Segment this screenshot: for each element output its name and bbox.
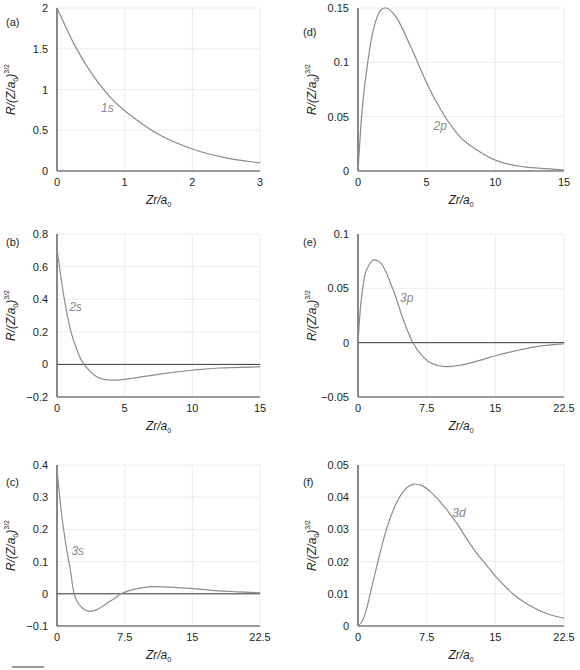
panel-e: 07.51522.5−0.0500.050.1(e)Zr/a0R/(Z/a0)3…: [303, 228, 575, 434]
x-tick-label: 15: [558, 176, 570, 188]
panel-label: (f): [303, 476, 313, 488]
panel-d: 05101500.050.10.15(d)Zr/a0R/(Z/a0)3/22p: [303, 2, 570, 208]
y-tick-label: 0.05: [328, 282, 349, 294]
y-tick-label: 2: [42, 2, 48, 14]
y-axis-title: R/(Z/a0)3/2: [3, 64, 19, 115]
y-tick-label: 0.01: [328, 588, 349, 600]
y-tick-label: 0.6: [33, 261, 48, 273]
y-tick-label: 0: [42, 165, 48, 177]
panel-a: 012300.511.52(a)Zr/a0R/(Z/a0)3/21s: [3, 2, 263, 208]
x-axis-title: Zr/a0: [145, 193, 171, 208]
y-tick-label: −0.05: [321, 391, 349, 403]
y-tick-label: 0: [343, 620, 349, 632]
y-tick-label: 0.15: [328, 2, 349, 14]
y-tick-label: 0.1: [33, 556, 48, 568]
curve-label: 3p: [400, 291, 414, 305]
y-tick-label: 0.03: [328, 523, 349, 535]
y-axis-title: R/(Z/a0)3/2: [304, 64, 320, 115]
x-tick-label: 5: [122, 402, 128, 414]
x-axis-title: Zr/a0: [145, 419, 171, 434]
y-tick-label: 0.4: [33, 459, 48, 471]
curve-label: 3d: [452, 506, 466, 520]
y-tick-label: 0: [42, 588, 48, 600]
y-tick-label: 0.05: [328, 111, 349, 123]
panel-label: (c): [6, 476, 19, 488]
curve-2p: [358, 8, 564, 171]
x-tick-label: 5: [424, 176, 430, 188]
y-tick-label: 0.2: [33, 326, 48, 338]
y-tick-label: 0: [343, 165, 349, 177]
y-tick-label: 1.5: [33, 43, 48, 55]
x-tick-label: 15: [489, 402, 501, 414]
y-tick-label: 0.1: [334, 56, 349, 68]
x-tick-label: 0: [355, 176, 361, 188]
curve-label: 2s: [68, 300, 82, 314]
y-axis-title: R/(Z/a0)3/2: [304, 520, 320, 571]
x-tick-label: 10: [186, 402, 198, 414]
y-tick-label: 0.04: [328, 491, 349, 503]
y-tick-label: 0.2: [33, 523, 48, 535]
curve-2s: [57, 249, 260, 380]
curve-label: 3s: [71, 544, 84, 558]
x-tick-label: 0: [54, 631, 60, 643]
y-tick-label: 0.8: [33, 228, 48, 240]
x-axis-title: Zr/a0: [447, 648, 473, 663]
x-axis-title: Zr/a0: [447, 193, 473, 208]
panel-label: (d): [303, 26, 316, 38]
y-tick-label: 0.05: [328, 459, 349, 471]
x-tick-label: 15: [489, 631, 501, 643]
x-tick-label: 0: [355, 402, 361, 414]
y-tick-label: −0.2: [26, 391, 48, 403]
panel-f: 07.51522.500.010.020.030.040.05(f)Zr/a0R…: [303, 459, 575, 663]
x-tick-label: 15: [254, 402, 266, 414]
x-tick-label: 22.5: [249, 631, 270, 643]
x-tick-label: 7.5: [117, 631, 132, 643]
footer-marker-bar: [12, 666, 44, 668]
x-tick-label: 0: [355, 631, 361, 643]
panel-c: 07.51522.5−0.100.10.20.30.4(c)Zr/a0R/(Z/…: [3, 459, 271, 663]
x-tick-label: 1: [122, 176, 128, 188]
y-tick-label: 0: [343, 337, 349, 349]
panel-label: (a): [6, 16, 19, 28]
panel-b: 051015−0.200.20.40.60.8(b)Zr/a0R/(Z/a0)3…: [3, 228, 266, 434]
y-tick-label: 0.5: [33, 124, 48, 136]
y-axis-title: R/(Z/a0)3/2: [3, 520, 19, 571]
y-axis-title: R/(Z/a0)3/2: [3, 290, 19, 341]
x-tick-label: 10: [489, 176, 501, 188]
curve-3s: [57, 470, 260, 612]
x-tick-label: 0: [54, 176, 60, 188]
y-tick-label: −0.1: [26, 620, 48, 632]
panel-label: (e): [303, 236, 316, 248]
x-tick-label: 7.5: [419, 631, 434, 643]
y-tick-label: 0: [42, 358, 48, 370]
x-tick-label: 15: [186, 631, 198, 643]
y-axis-title: R/(Z/a0)3/2: [304, 290, 320, 341]
x-tick-label: 7.5: [419, 402, 434, 414]
curve-3p: [358, 260, 564, 367]
panel-label: (b): [6, 236, 19, 248]
x-tick-label: 22.5: [553, 631, 574, 643]
x-tick-label: 0: [54, 402, 60, 414]
y-tick-label: 0.4: [33, 293, 48, 305]
x-axis-title: Zr/a0: [447, 419, 473, 434]
curve-label: 1s: [101, 101, 114, 115]
x-tick-label: 22.5: [553, 402, 574, 414]
curve-1s: [57, 8, 260, 163]
x-tick-label: 2: [189, 176, 195, 188]
curve-label: 2p: [433, 119, 448, 133]
y-tick-label: 0.02: [328, 556, 349, 568]
radial-wavefunction-figure: 012300.511.52(a)Zr/a0R/(Z/a0)3/21s051015…: [0, 0, 580, 670]
y-tick-label: 1: [42, 84, 48, 96]
x-axis-title: Zr/a0: [145, 648, 171, 663]
y-tick-label: 0.3: [33, 491, 48, 503]
y-tick-label: 0.1: [334, 228, 349, 240]
x-tick-label: 3: [257, 176, 263, 188]
